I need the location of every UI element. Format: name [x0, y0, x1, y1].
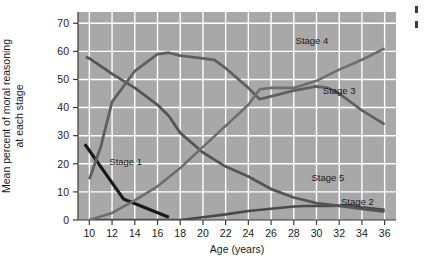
x-tick-label: 18 [174, 227, 186, 239]
series-label-stage-3: Stage 3 [323, 85, 356, 96]
x-tick-label: 28 [288, 227, 300, 239]
series-label-stage-2: Stage 2 [341, 196, 374, 207]
x-tick-label: 20 [197, 227, 209, 239]
y-tick-label: 40 [57, 101, 69, 113]
x-tick-label: 14 [129, 227, 141, 239]
scan-artifact-mark-bottom [415, 21, 418, 28]
x-tick-label: 22 [220, 227, 232, 239]
x-tick-label: 32 [333, 227, 345, 239]
y-axis-ticks [73, 23, 78, 220]
y-tick-label: 0 [63, 214, 69, 226]
x-axis-tick-labels: 1012141618202224262830323436 [84, 227, 391, 239]
y-axis-title: Mean percent of moral reasoningat each s… [0, 39, 25, 193]
series-label-stage-4: Stage 4 [296, 35, 329, 46]
x-tick-label: 12 [106, 227, 118, 239]
series-label-stage-1: Stage 1 [109, 156, 142, 167]
chart-container: 010203040506070 101214161820222426283032… [0, 0, 425, 261]
x-axis-ticks [89, 220, 384, 225]
x-tick-label: 10 [84, 227, 96, 239]
y-tick-label: 50 [57, 73, 69, 85]
y-axis-tick-labels: 010203040506070 [57, 17, 69, 226]
x-tick-label: 24 [243, 227, 255, 239]
scan-artifact-mark-top [415, 6, 418, 13]
x-tick-label: 16 [152, 227, 164, 239]
x-tick-label: 36 [379, 227, 391, 239]
y-tick-label: 60 [57, 45, 69, 57]
y-tick-label: 10 [57, 186, 69, 198]
moral-reasoning-line-chart: 010203040506070 101214161820222426283032… [0, 0, 425, 261]
x-tick-label: 34 [356, 227, 368, 239]
x-tick-label: 26 [265, 227, 277, 239]
y-tick-label: 20 [57, 158, 69, 170]
y-tick-label: 70 [57, 17, 69, 29]
series-label-stage-5: Stage 5 [311, 172, 344, 183]
x-tick-label: 30 [311, 227, 323, 239]
y-tick-label: 30 [57, 129, 69, 141]
x-axis-title: Age (years) [210, 243, 264, 255]
